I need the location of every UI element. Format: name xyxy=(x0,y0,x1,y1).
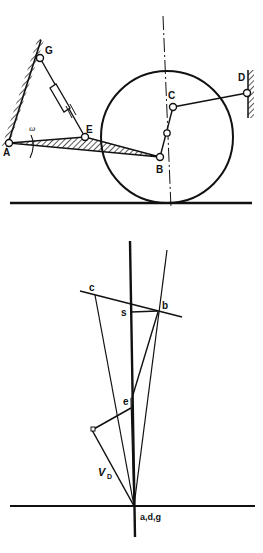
label-g: G xyxy=(45,45,53,56)
label-b-lower: b xyxy=(162,300,168,311)
label-d: D xyxy=(238,72,245,83)
label-vd: V xyxy=(98,466,107,478)
label-e-lower: e xyxy=(123,396,129,407)
label-vd-subscript: D xyxy=(107,473,112,480)
line-sb xyxy=(131,311,158,312)
joint-a xyxy=(6,140,13,147)
label-e: E xyxy=(86,124,93,135)
ray-ab xyxy=(134,250,167,506)
joint-d xyxy=(244,90,251,97)
omega-arrow-icon xyxy=(30,135,33,158)
label-s: s xyxy=(121,307,127,318)
wheel-centerline xyxy=(163,16,171,208)
wheel xyxy=(101,71,233,203)
joint-bc-mid xyxy=(164,130,170,136)
label-origin: a,d,g xyxy=(140,512,161,522)
right-angle-icon xyxy=(91,427,95,431)
label-b: B xyxy=(156,164,163,175)
kinematics-diagram: G A E B C D ω c b s e V D xyxy=(0,0,263,553)
label-c: C xyxy=(168,90,175,101)
mechanism-diagram: G A E B C D ω xyxy=(2,16,254,208)
joint-b xyxy=(157,154,164,161)
velocity-polygon: c b s e V D a,d,g xyxy=(10,241,255,537)
link-cd xyxy=(173,93,247,107)
link-ge-cylinder xyxy=(40,58,85,137)
line-e-perp xyxy=(92,408,131,430)
label-a: A xyxy=(3,147,10,158)
joint-g xyxy=(37,55,44,62)
vector-be xyxy=(132,312,158,398)
joint-c xyxy=(170,104,177,111)
label-omega: ω xyxy=(29,123,35,133)
label-c-lower: c xyxy=(89,282,95,293)
